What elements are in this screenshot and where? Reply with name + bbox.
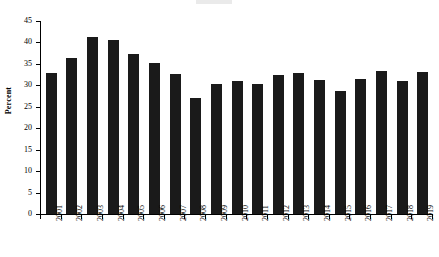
- x-axis-tick-label: 2004: [117, 191, 126, 221]
- x-axis-tick-label: 2013: [302, 191, 311, 221]
- y-axis-tick-label: 5: [16, 189, 32, 197]
- x-axis-tick-label: 2015: [344, 191, 353, 221]
- y-axis-tick-label: 45: [16, 17, 32, 25]
- x-axis-tick-label: 2012: [282, 191, 291, 221]
- y-axis-tick-label: 40: [16, 38, 32, 46]
- y-axis-tick-label: 25: [16, 103, 32, 111]
- y-axis-tick: [36, 42, 41, 43]
- x-axis-tick-label: 2009: [220, 191, 229, 221]
- x-tick-label-group: 2001200220032004200520062007200820092010…: [40, 221, 432, 257]
- x-axis-tick-label: 2003: [96, 191, 105, 221]
- y-axis-tick: [36, 85, 41, 86]
- y-axis-title: Percent: [4, 71, 13, 131]
- y-axis-tick-label: 35: [16, 60, 32, 68]
- y-axis-tick: [36, 150, 41, 151]
- y-axis-line: [40, 21, 41, 215]
- x-axis-tick-label: 2008: [199, 191, 208, 221]
- y-axis-tick: [36, 171, 41, 172]
- y-axis-tick: [36, 21, 41, 22]
- y-axis-tick-label: 30: [16, 81, 32, 89]
- x-axis-tick-label: 2001: [55, 191, 64, 221]
- y-axis-tick: [36, 128, 41, 129]
- y-axis-tick-label: 15: [16, 146, 32, 154]
- x-axis-tick-label: 2011: [261, 191, 270, 221]
- plot-area: 051015202530354045: [40, 21, 432, 214]
- bar-chart: Percent 051015202530354045 2001200220032…: [0, 0, 439, 257]
- x-axis-tick-label: 2006: [158, 191, 167, 221]
- x-axis-tick-label: 2018: [406, 191, 415, 221]
- x-axis-tick-label: 2017: [385, 191, 394, 221]
- y-axis-tick: [36, 193, 41, 194]
- x-axis-tick: [40, 214, 41, 219]
- bar: [108, 40, 119, 214]
- x-axis-tick-label: 2010: [241, 191, 250, 221]
- y-axis-tick-label: 0: [16, 210, 32, 218]
- y-axis-tick: [36, 107, 41, 108]
- x-axis-tick-label: 2005: [137, 191, 146, 221]
- y-axis-tick: [36, 64, 41, 65]
- x-axis-tick-label: 2007: [179, 191, 188, 221]
- x-axis-tick-label: 2014: [323, 191, 332, 221]
- x-axis-tick-label: 2016: [364, 191, 373, 221]
- x-axis-tick-label: 2019: [426, 191, 435, 221]
- y-axis-tick-label: 10: [16, 167, 32, 175]
- x-axis-tick-label: 2002: [75, 191, 84, 221]
- y-axis-tick-label: 20: [16, 124, 32, 132]
- cropped-title-artifact: [196, 0, 232, 4]
- bar: [87, 37, 98, 214]
